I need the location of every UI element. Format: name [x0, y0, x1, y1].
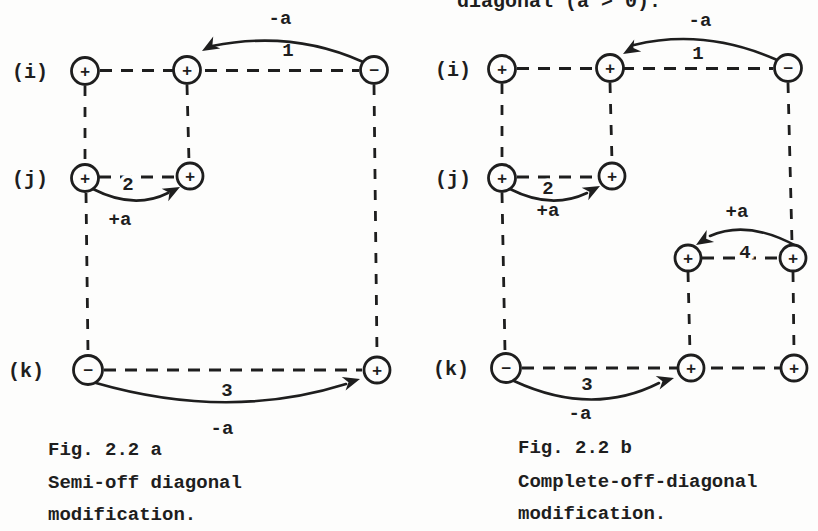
- fig-b-node-k1-sign: −: [501, 360, 511, 379]
- fig-a-arrowhead-3-icon: [342, 372, 362, 390]
- fig-b-arc-3-number: 3: [581, 374, 592, 396]
- fig-a-vertical-line-i2-j2: [187, 85, 189, 162]
- fig-a-row-label-j: (j): [12, 168, 48, 191]
- figure-canvas: + + − + + − + (i) (j) (k) 1 -a 2 +a 3 -a…: [0, 0, 818, 531]
- fig-a-caption-line-1: Fig. 2.2 a: [48, 439, 162, 461]
- fig-a-caption-line-3: modification.: [48, 504, 196, 526]
- fig-b-arc-4-amount: +a: [726, 201, 749, 223]
- top-clipped-text: diagonal (a > 0).: [457, 0, 661, 13]
- fig-a-node-i3-sign: −: [369, 62, 379, 81]
- fig-b-node-i3-sign: −: [783, 60, 793, 79]
- fig-b-arc-4: [710, 230, 798, 247]
- fig-b-arc-3-amount: -a: [569, 403, 592, 425]
- fig-b-caption-line-1: Fig. 2.2 b: [518, 437, 632, 459]
- fig-b-caption-line-3: modification.: [518, 503, 666, 525]
- fig-a-row-label-k: (k): [8, 360, 44, 383]
- fig-b-arc-4-number: 4: [739, 242, 750, 264]
- fig-b-vertical-line-i2-j2: [610, 83, 612, 162]
- fig-b-arc-2-number: 2: [542, 178, 553, 200]
- fig-a-arc-3-number: 3: [221, 380, 232, 402]
- fig-b-node-m1-sign: +: [683, 250, 693, 269]
- fig-a-vertical-line-i3-k2: [374, 85, 377, 355]
- fig-b-arrowhead-3-icon: [656, 371, 676, 389]
- fig-b-vertical-line-j1-k1: [502, 193, 505, 352]
- fig-a-arc-2-amount: +a: [109, 209, 132, 231]
- fig-b-diagram: diagonal (a > 0). + + −: [433, 0, 807, 525]
- fig-a-vertical-line-j1-k1: [86, 193, 88, 354]
- fig-b-node-i1-sign: +: [497, 61, 507, 80]
- fig-a-diagram: + + − + + − + (i) (j) (k) 1 -a 2 +a 3 -a…: [8, 8, 390, 526]
- fig-b-row-label-j: (j): [435, 168, 471, 191]
- fig-a-arc-1-amount: -a: [269, 8, 292, 30]
- fig-b-node-j2-sign: +: [607, 168, 617, 187]
- fig-b-arc-1-number: 1: [692, 43, 703, 65]
- fig-b-node-k2-sign: +: [686, 360, 696, 379]
- fig-b-vertical-line-m1-k2: [688, 272, 690, 353]
- fig-b-caption-line-2: Complete-off-diagonal: [518, 471, 757, 493]
- fig-a-arc-2-number: 2: [122, 174, 133, 196]
- fig-b-arrowhead-1-icon: [620, 39, 642, 60]
- fig-b-node-m2-sign: +: [788, 250, 798, 269]
- fig-a-caption-line-2: Semi-off diagonal: [48, 472, 242, 494]
- fig-b-node-i2-sign: +: [605, 60, 615, 79]
- fig-a-node-k1-sign: −: [83, 362, 93, 381]
- fig-a-arc-3-amount: -a: [211, 418, 234, 440]
- fig-b-node-k3-sign: +: [789, 360, 799, 379]
- fig-b-vertical-line-m2-k3: [793, 272, 794, 353]
- fig-b-row-label-k: (k): [433, 358, 469, 381]
- fig-b-arc-1: [634, 39, 776, 59]
- fig-b-vertical-line-i3-m2: [788, 83, 792, 243]
- fig-a-node-i1-sign: +: [80, 63, 90, 82]
- fig-a-node-j2-sign: +: [185, 168, 195, 187]
- fig-b-node-j1-sign: +: [497, 170, 507, 189]
- fig-a-row-label-i: (i): [12, 61, 48, 84]
- fig-b-row-label-i: (i): [435, 59, 471, 82]
- fig-a-arc-1-number: 1: [282, 40, 293, 62]
- fig-a-node-j1-sign: +: [80, 170, 90, 189]
- fig-a-arrowhead-1-icon: [199, 36, 221, 57]
- fig-a-node-k2-sign: +: [372, 362, 382, 381]
- fig-b-arc-1-amount: -a: [689, 10, 712, 32]
- fig-a-node-i2-sign: +: [182, 62, 192, 81]
- fig-b-arc-2-amount: +a: [537, 200, 560, 222]
